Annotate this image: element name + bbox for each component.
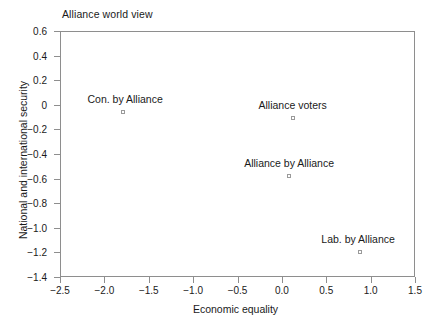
chart-title: Alliance world view xyxy=(62,8,153,20)
data-point-marker[interactable] xyxy=(291,116,295,120)
x-tick-mark xyxy=(415,277,416,283)
data-point-marker[interactable] xyxy=(287,174,291,178)
data-point-label: Alliance by Alliance xyxy=(244,157,334,169)
scatter-chart-figure: Alliance world view 0.60.40.20−0.2−0.4−0… xyxy=(0,0,429,328)
x-tick-label: −0.5 xyxy=(228,285,248,296)
x-tick-label: 1.5 xyxy=(408,285,422,296)
x-axis-label: Economic equality xyxy=(0,303,429,315)
x-tick-label: 1.0 xyxy=(364,285,378,296)
data-point-label: Lab. by Alliance xyxy=(321,233,395,245)
x-tick-label: −1.0 xyxy=(183,285,203,296)
x-tick-label: −2.0 xyxy=(95,285,115,296)
data-point-label: Con. by Alliance xyxy=(87,93,162,105)
x-tick-mark xyxy=(193,277,194,283)
x-tick-mark xyxy=(238,277,239,283)
data-point-marker[interactable] xyxy=(121,110,125,114)
x-tick-label: −2.5 xyxy=(50,285,70,296)
plot-area: Con. by AllianceAlliance votersAlliance … xyxy=(60,31,415,277)
x-tick-mark xyxy=(371,277,372,283)
x-tick-mark xyxy=(149,277,150,283)
x-tick-label: −1.5 xyxy=(139,285,159,296)
data-point-label: Alliance voters xyxy=(258,99,326,111)
x-tick-mark xyxy=(60,277,61,283)
x-tick-mark xyxy=(326,277,327,283)
x-axis-label-text: Economic equality xyxy=(193,303,278,315)
x-tick-mark xyxy=(282,277,283,283)
x-tick-label: 0.0 xyxy=(275,285,289,296)
y-axis-label: National and international security xyxy=(17,35,29,285)
x-tick-mark xyxy=(104,277,105,283)
x-tick-label: 0.5 xyxy=(319,285,333,296)
data-point-marker[interactable] xyxy=(358,250,362,254)
